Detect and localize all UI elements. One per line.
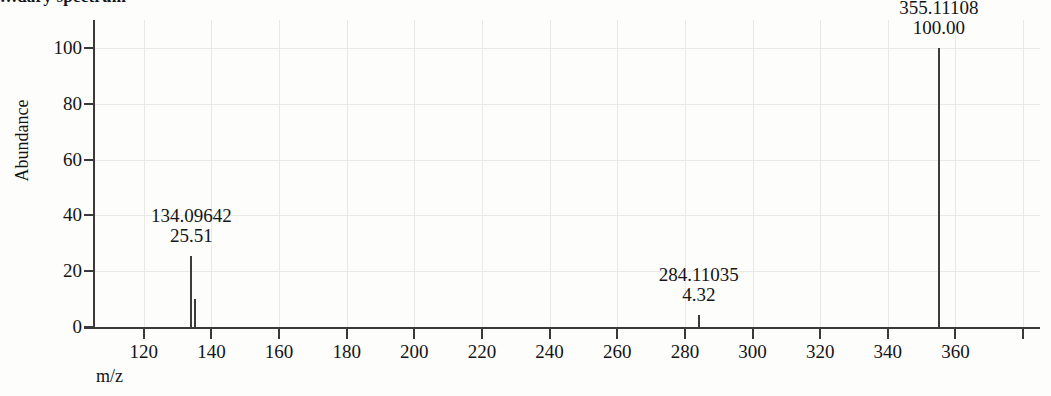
x-axis-tick — [278, 329, 280, 339]
x-axis-tick — [752, 329, 754, 339]
y-axis-tick-label: 40 — [38, 205, 82, 224]
x-axis-tick-label: 360 — [925, 342, 985, 361]
gridline-vertical — [279, 20, 280, 327]
y-axis-tick-label: 100 — [38, 38, 82, 57]
spectrum-peak — [938, 48, 940, 327]
gridline-vertical — [347, 20, 348, 327]
x-axis-tick — [346, 329, 348, 339]
y-axis-tick-label: 20 — [38, 261, 82, 280]
x-axis-tick-label: 160 — [249, 342, 309, 361]
peak-abundance-label: 100.00 — [899, 18, 978, 39]
x-axis-tick — [1022, 329, 1024, 339]
y-axis-tick — [84, 326, 94, 328]
x-axis-tick-label: 220 — [452, 342, 512, 361]
x-axis-tick — [954, 329, 956, 339]
x-axis-tick — [616, 329, 618, 339]
peak-mz-label: 355.11108 — [899, 0, 978, 18]
spectrum-peak — [194, 299, 196, 327]
figure-title: …dary spectrum — [0, 0, 126, 7]
gridline-vertical — [144, 20, 145, 327]
x-axis-tick-label: 120 — [114, 342, 174, 361]
peak-abundance-label: 4.32 — [659, 285, 739, 306]
gridline-vertical — [955, 20, 956, 327]
peak-abundance-label: 25.51 — [151, 226, 232, 247]
gridline-vertical — [820, 20, 821, 327]
x-axis-line — [84, 327, 1040, 329]
x-axis-tick-label: 320 — [790, 342, 850, 361]
x-axis-tick — [210, 329, 212, 339]
x-axis-tick-label: 180 — [317, 342, 377, 361]
spectrum-figure: …dary spectrum Abundance m/z 02040608010… — [0, 0, 1051, 396]
gridline-horizontal — [93, 215, 1040, 216]
x-axis-title: m/z — [96, 366, 123, 387]
x-axis-tick-label: 340 — [858, 342, 918, 361]
x-axis-tick — [819, 329, 821, 339]
y-axis-tick-label: 60 — [38, 150, 82, 169]
gridline-vertical — [1023, 20, 1024, 327]
peak-mz-label: 134.09642 — [151, 206, 232, 227]
y-axis-tick — [84, 47, 94, 49]
x-axis-tick — [684, 329, 686, 339]
x-axis-tick — [887, 329, 889, 339]
gridline-vertical — [211, 20, 212, 327]
gridline-horizontal — [93, 48, 1040, 49]
y-axis-line — [93, 20, 95, 328]
x-axis-tick — [549, 329, 551, 339]
y-axis-title: Abundance — [12, 100, 33, 182]
gridline-vertical — [888, 20, 889, 327]
x-axis-tick-label: 260 — [587, 342, 647, 361]
gridline-vertical — [414, 20, 415, 327]
y-axis-tick — [84, 270, 94, 272]
peak-annotation: 355.11108100.00 — [899, 0, 978, 39]
gridline-vertical — [617, 20, 618, 327]
y-axis-tick-label: 0 — [38, 317, 82, 336]
gridline-vertical — [482, 20, 483, 327]
gridline-vertical — [550, 20, 551, 327]
gridline-vertical — [753, 20, 754, 327]
y-axis-tick — [84, 159, 94, 161]
spectrum-peak — [698, 315, 700, 327]
y-axis-tick — [84, 103, 94, 105]
plot-area — [93, 20, 1040, 327]
y-axis-tick — [84, 214, 94, 216]
x-axis-tick-label: 140 — [181, 342, 241, 361]
x-axis-tick — [481, 329, 483, 339]
peak-annotation: 284.110354.32 — [659, 265, 739, 306]
x-axis-tick-label: 300 — [723, 342, 783, 361]
peak-annotation: 134.0964225.51 — [151, 206, 232, 247]
x-axis-tick — [413, 329, 415, 339]
gridline-horizontal — [93, 104, 1040, 105]
x-axis-tick — [143, 329, 145, 339]
gridline-horizontal — [93, 271, 1040, 272]
x-axis-tick-label: 280 — [655, 342, 715, 361]
spectrum-peak — [190, 256, 192, 327]
y-axis-tick-label: 80 — [38, 94, 82, 113]
peak-mz-label: 284.11035 — [659, 265, 739, 286]
x-axis-tick-label: 200 — [384, 342, 444, 361]
gridline-horizontal — [93, 160, 1040, 161]
x-axis-tick-label: 240 — [520, 342, 580, 361]
